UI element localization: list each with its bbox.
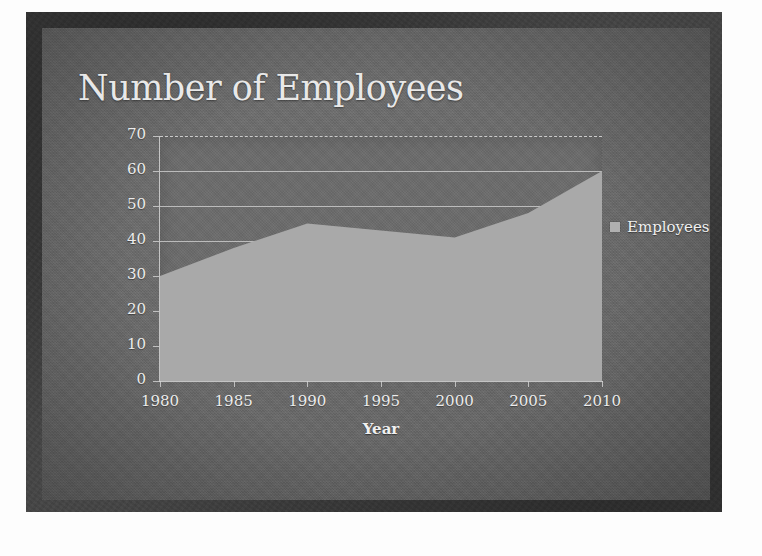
x-axis-tick-label: 2005 [509,392,547,410]
x-axis-tick [602,381,603,387]
legend-item-label: Employees [627,218,710,236]
x-axis-tick [381,381,382,387]
y-axis-tick-label: 40 [60,230,146,248]
legend-swatch-icon [610,222,620,232]
y-axis-tick-label: 60 [60,160,146,178]
x-axis-tick [528,381,529,387]
x-axis-title: Year [160,420,602,438]
x-axis-tick-label: 1980 [141,392,179,410]
x-axis-tick-label: 2000 [436,392,474,410]
y-axis-tick [153,136,159,137]
area-chart: 010203040506070 198019851990199520002005… [60,128,690,488]
area-series-employees [160,136,602,381]
y-axis-tick-label: 70 [60,125,146,143]
y-axis-tick-label: 10 [60,335,146,353]
chart-legend: Employees [610,218,710,236]
y-axis-tick [153,206,159,207]
presentation-slide: Number of Employees 010203040506070 1980… [42,28,710,500]
y-axis-tick [153,171,159,172]
y-axis-tick [153,346,159,347]
x-axis-tick [455,381,456,387]
y-axis-tick-label: 0 [60,370,146,388]
x-axis-tick-label: 1990 [288,392,326,410]
plot-area [160,136,602,381]
y-axis-tick-label: 50 [60,195,146,213]
y-axis-tick [153,381,159,382]
slide-photo: Number of Employees 010203040506070 1980… [0,0,762,556]
x-axis-tick [160,381,161,387]
y-axis-tick [153,241,159,242]
y-axis-tick-label: 30 [60,265,146,283]
y-axis-tick [153,276,159,277]
page-title: Number of Employees [78,68,464,108]
x-axis-tick [307,381,308,387]
y-axis-tick-label: 20 [60,300,146,318]
x-axis-tick-label: 1995 [362,392,400,410]
x-axis-tick-label: 2010 [583,392,621,410]
y-axis-tick [153,311,159,312]
y-axis-line [159,136,160,382]
x-axis-tick [234,381,235,387]
x-axis-tick-label: 1985 [215,392,253,410]
